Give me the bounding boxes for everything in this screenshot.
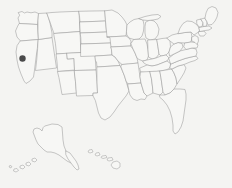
- state-washington: [18, 12, 39, 25]
- map-markers-group: [19, 55, 25, 61]
- hawaii-island-maui: [107, 158, 113, 162]
- hawaii-island-kauai: [88, 150, 93, 154]
- hawaii-island-oahu: [95, 153, 100, 157]
- state-north-dakota: [79, 11, 106, 22]
- location-marker-california[interactable]: [19, 55, 25, 61]
- state-south-dakota: [80, 21, 107, 33]
- state-kansas: [81, 43, 112, 57]
- state-wyoming: [54, 32, 81, 55]
- state-new-mexico: [75, 70, 98, 96]
- us-map-svg: [0, 0, 232, 188]
- state-oregon: [16, 24, 39, 42]
- state-iowa: [107, 36, 131, 47]
- us-map-container: [0, 0, 232, 188]
- state-connecticut-rhode-island: [199, 31, 207, 36]
